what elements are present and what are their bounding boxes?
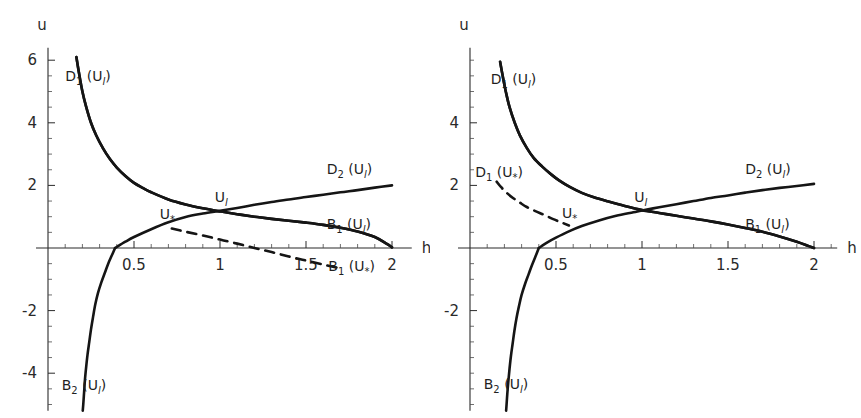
curve-annotation-b1u: B1 (U*) [328, 258, 375, 277]
x-tick-label: 1 [215, 256, 225, 274]
x-tick-label: 0.5 [544, 256, 568, 274]
chart-panel-right: 0.511.5242-2huD1 (Ul)D1 (U*)D2 (Ul)B1 (U… [430, 0, 861, 418]
y-axis-label: u [37, 16, 47, 34]
x-tick-label: 1 [637, 256, 647, 274]
chart-svg-right-panel: 0.511.5242-2huD1 (Ul)D1 (U*)D2 (Ul)B1 (U… [430, 0, 861, 418]
y-tick-label: 2 [449, 176, 459, 194]
x-axis-label: h [422, 239, 430, 257]
y-tick-label: 6 [27, 51, 37, 69]
x-tick-label: 2 [809, 256, 819, 274]
curve-annotation-d1u: D1 (U*) [475, 164, 523, 183]
y-tick-label: -2 [22, 302, 37, 320]
y-tick-label: -4 [22, 364, 37, 382]
curve-annotation-b2ul: B2 (Ul) [484, 376, 528, 395]
point-label-u-left-state: Ul [634, 189, 647, 208]
x-tick-label: 2 [387, 256, 397, 274]
y-tick-label: 4 [449, 114, 459, 132]
y-axis-label: u [459, 16, 469, 34]
chart-svg-left-panel: 0.511.52642-2-4huD1 (Ul)D2 (Ul)B1 (Ul)B2… [0, 0, 430, 418]
curve-annotation-d1ul: D1 (Ul) [491, 71, 537, 90]
curve-annotation-d1ul: D1 (Ul) [65, 68, 111, 87]
chart-panel-left: 0.511.52642-2-4huD1 (Ul)D2 (Ul)B1 (Ul)B2… [0, 0, 430, 418]
point-label-u-star: U* [562, 205, 577, 224]
curve-annotation-d2ul: D2 (Ul) [745, 161, 791, 180]
point-label-u-left-state: Ul [215, 189, 228, 208]
x-axis-label: h [847, 239, 857, 257]
y-tick-label: -2 [444, 302, 459, 320]
curve-d1u [497, 182, 569, 226]
curve-annotation-d2ul: D2 (Ul) [327, 161, 373, 180]
curve-annotation-b1ul: B1 (Ul) [327, 216, 371, 235]
figure-root: 0.511.52642-2-4huD1 (Ul)D2 (Ul)B1 (Ul)B2… [0, 0, 861, 418]
x-tick-label: 0.5 [122, 256, 146, 274]
y-tick-label: 2 [27, 176, 37, 194]
x-tick-label: 1.5 [716, 256, 740, 274]
y-tick-label: 4 [27, 114, 37, 132]
